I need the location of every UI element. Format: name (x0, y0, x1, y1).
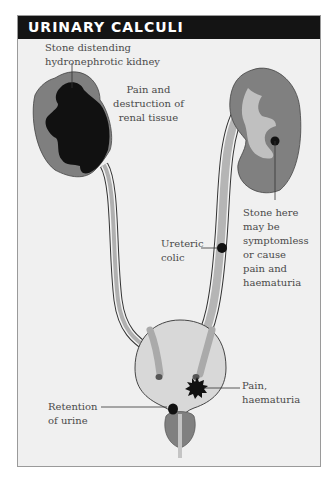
label-retention: Retention of urine (48, 400, 98, 428)
label-line: colic (161, 251, 204, 265)
label-line: may be (243, 220, 309, 234)
label-line: destruction of (113, 97, 184, 111)
urethral-stone (168, 404, 178, 415)
label-bladder-pain: Pain, haematuria (242, 379, 300, 407)
right-ureteric-orifice (193, 374, 200, 380)
label-line: haematuria (242, 393, 300, 407)
label-line: of urine (48, 414, 98, 428)
label-line: pain and (243, 262, 309, 276)
label-line: or cause (243, 248, 309, 262)
label-ureteric-colic: Ureteric colic (161, 237, 204, 265)
label-line: Stone here (243, 206, 309, 220)
label-line: hydronephrotic kidney (45, 55, 160, 69)
label-line: symptomless (243, 234, 309, 248)
label-line: Stone distending (45, 41, 160, 55)
label-line: Ureteric (161, 237, 204, 251)
urethra (178, 414, 182, 458)
label-line: haematuria (243, 276, 309, 290)
label-line: Retention (48, 400, 98, 414)
label-stone-here: Stone here may be symptomless or cause p… (243, 206, 309, 290)
left-ureteric-orifice (156, 374, 163, 380)
label-line: renal tissue (113, 111, 184, 125)
ureteric-stone (217, 243, 227, 253)
label-line: Pain, (242, 379, 300, 393)
label-stone-distending: Stone distending hydronephrotic kidney (45, 41, 160, 69)
label-pain-destruction: Pain and destruction of renal tissue (113, 83, 184, 125)
label-line: Pain and (113, 83, 184, 97)
